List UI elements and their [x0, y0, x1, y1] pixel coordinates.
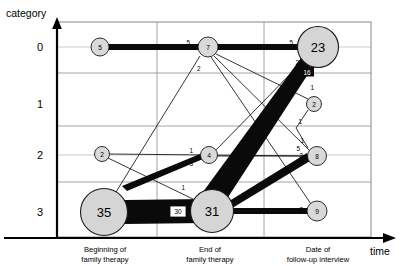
- band-e0-f0: [218, 44, 298, 50]
- node-label: 2: [100, 151, 104, 158]
- node-label: 35: [97, 205, 111, 220]
- x-axis-arrow: [383, 233, 396, 243]
- y-axis-title: category: [6, 7, 47, 19]
- x-label-1-line1: End of: [199, 245, 222, 254]
- edge-label-b3-e2: 3: [189, 160, 193, 167]
- node-label: 4: [207, 152, 211, 159]
- node-label: 5: [98, 44, 102, 51]
- edge-label-e0-f3: 1: [300, 137, 304, 144]
- x-axis-title: time: [370, 245, 390, 257]
- edge-label-e3-f2: 5: [296, 145, 300, 152]
- edge-label-30: 30: [174, 208, 182, 215]
- node-label: 8: [315, 153, 319, 160]
- node-b0[interactable]: 5: [91, 38, 109, 56]
- node-e0[interactable]: 7: [198, 37, 218, 57]
- edge-label-b0-e0: 5: [186, 39, 190, 46]
- cat-tick-1: 1: [37, 98, 43, 110]
- node-label: 23: [311, 40, 325, 55]
- chart-container: 5 2 35 7 4 31: [0, 0, 408, 266]
- node-b3[interactable]: 35: [81, 189, 128, 236]
- y-axis-arrow: [52, 17, 62, 29]
- edge-label-e0-f0: 5: [289, 39, 293, 46]
- flow-diagram-svg: 5 2 35 7 4 31: [0, 0, 408, 266]
- edge-label-b2-e3: 1: [181, 184, 185, 191]
- node-f1[interactable]: 2: [307, 97, 322, 112]
- node-label: 2: [312, 101, 316, 108]
- node-f3[interactable]: 9: [307, 201, 327, 221]
- x-label-1-line2: family therapy: [186, 255, 233, 264]
- edge-label-b2-f2: 1: [189, 147, 193, 154]
- edge-label-16: 16: [303, 69, 311, 76]
- band-e3-f3: [232, 208, 308, 214]
- x-label-2-line2: follow-up interview: [287, 255, 350, 264]
- node-label: 9: [315, 208, 319, 215]
- node-f2[interactable]: 8: [308, 147, 327, 166]
- cat-tick-0: 0: [37, 41, 43, 53]
- edge-label-e0-f1: 1: [310, 84, 314, 91]
- edge-label-e0-f2: 1: [298, 118, 302, 125]
- edge-labels-group: 5 5 2 2 1 1 1 2 5 8 1 3 1 30 16 16: [170, 39, 314, 217]
- x-label-0-line2: family therapy: [81, 255, 128, 264]
- node-b2[interactable]: 2: [95, 147, 110, 162]
- edge-label-box-b3-e3: 30: [170, 206, 186, 217]
- edge-label-e2-f2: 2: [299, 152, 303, 159]
- node-e2[interactable]: 4: [201, 147, 218, 164]
- node-label: 7: [206, 44, 210, 51]
- edge-label-box-e3-f0: 16: [300, 67, 314, 77]
- node-f0[interactable]: 23: [298, 27, 339, 68]
- x-label-2-line1: Date of: [306, 245, 331, 254]
- cat-tick-3: 3: [37, 206, 43, 218]
- edge-label-b3-e0: 2: [197, 65, 201, 72]
- cat-tick-2: 2: [37, 149, 43, 161]
- x-label-0-line1: Beginning of: [84, 245, 127, 254]
- edge-label-e3-f3: 8: [299, 206, 303, 213]
- node-label: 31: [205, 204, 219, 219]
- node-e3[interactable]: 31: [191, 190, 234, 233]
